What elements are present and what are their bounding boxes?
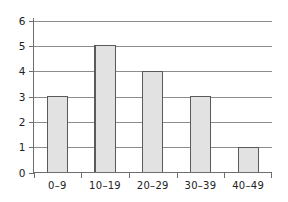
bar-0 [47, 97, 67, 173]
x-tick-label-3: 30–39 [184, 180, 216, 191]
chart-svg: 0123456 0–910–1920–2930–3940–49 [0, 0, 288, 202]
bar-1 [95, 46, 115, 173]
y-tick-label-3: 3 [19, 91, 26, 103]
y-tick-label-4: 4 [19, 65, 26, 77]
y-tick-label-5: 5 [19, 40, 26, 52]
y-tick-label-0: 0 [19, 167, 26, 179]
x-tick-label-0: 0–9 [48, 180, 67, 191]
histogram-chart: 0123456 0–910–1920–2930–3940–49 [0, 0, 288, 202]
y-tick-label-2: 2 [19, 116, 26, 128]
y-tick-label-6: 6 [19, 15, 26, 27]
x-tick-label-4: 40–49 [232, 180, 264, 191]
bar-4 [238, 147, 258, 172]
x-tick-label-1: 10–19 [89, 180, 121, 191]
bar-3 [190, 97, 210, 173]
bar-2 [143, 71, 163, 172]
x-tick-label-2: 20–29 [137, 180, 169, 191]
y-tick-label-1: 1 [19, 141, 26, 153]
